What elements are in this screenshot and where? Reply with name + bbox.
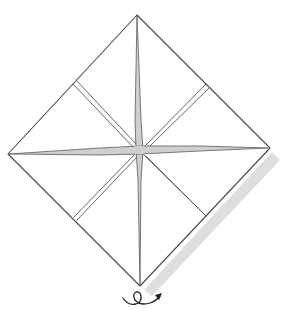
fold-line-lower-right (143, 154, 206, 216)
fold-line-lower-left (74, 155, 137, 220)
diagram-canvas (0, 0, 283, 309)
turn-over-symbol (123, 292, 162, 305)
arrow-head-icon (155, 293, 162, 300)
center-point (135, 146, 144, 154)
edge-shadow (144, 152, 280, 296)
turn-over-arc (123, 292, 160, 305)
fold-line-upper-left (73, 80, 137, 148)
fold-line-upper-right (145, 84, 209, 149)
